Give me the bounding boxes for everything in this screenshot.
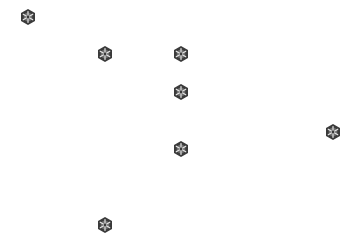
canvas [0, 0, 354, 243]
hexagon-node-7[interactable] [96, 216, 114, 234]
hexagon-node-3[interactable] [172, 45, 190, 63]
hexagon-node-1[interactable] [19, 8, 37, 26]
hexagon-node-4[interactable] [172, 83, 190, 101]
hexagon-snowflake-icon [172, 140, 190, 158]
hexagon-snowflake-icon [96, 216, 114, 234]
hexagon-node-6[interactable] [324, 123, 342, 141]
hexagon-snowflake-icon [172, 45, 190, 63]
hexagon-snowflake-icon [19, 8, 37, 26]
hexagon-node-5[interactable] [172, 140, 190, 158]
hexagon-snowflake-icon [172, 83, 190, 101]
hexagon-snowflake-icon [324, 123, 342, 141]
hexagon-node-2[interactable] [96, 45, 114, 63]
hexagon-snowflake-icon [96, 45, 114, 63]
